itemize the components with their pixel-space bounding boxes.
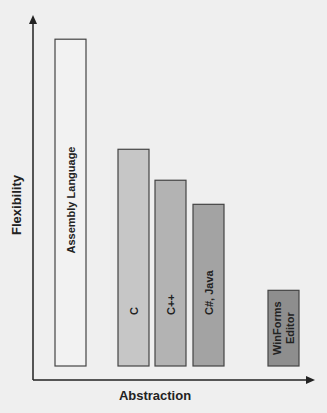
- x-axis-arrow-icon: [306, 376, 315, 384]
- bar-label-c-java: C#, Java: [203, 269, 215, 315]
- bar-c: [118, 149, 149, 366]
- bar-label-c: C: [128, 307, 140, 315]
- bar-label-assembly-language: Assembly Language: [65, 147, 77, 254]
- abstraction-flexibility-chart: Assembly LanguageCC++C#, JavaWinFormsEdi…: [0, 0, 327, 413]
- bar-label-c: C++: [165, 294, 177, 315]
- y-axis-arrow-icon: [29, 15, 37, 24]
- y-axis-label: Flexibility: [9, 174, 24, 235]
- bar-c: [155, 180, 186, 366]
- x-axis-label: Abstraction: [119, 388, 191, 403]
